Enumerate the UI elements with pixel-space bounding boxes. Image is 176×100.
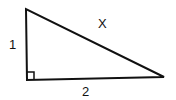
right-triangle: [26, 9, 164, 80]
right-angle-marker: [27, 72, 34, 80]
label-hypotenuse: X: [98, 17, 107, 30]
label-vertical-leg: 1: [9, 38, 16, 51]
label-horizontal-leg: 2: [82, 85, 89, 98]
